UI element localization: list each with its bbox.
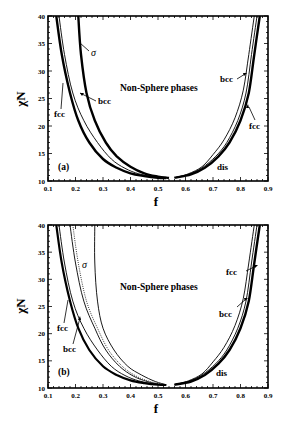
arrowhead-bcc-right-a [243,73,247,76]
y-tick-30: 30 [38,68,46,76]
y-tick-35: 35 [38,40,46,48]
x-tick-0.9: 0.9 [264,185,273,193]
y-tick-15: 15 [38,357,46,365]
x-tick-0.8: 0.8 [236,392,245,400]
x-tick-0.9: 0.9 [264,392,273,400]
y-tick-35: 35 [38,249,46,257]
y-tick-40: 40 [38,222,46,230]
y-tick-25: 25 [38,95,46,103]
arrow-fcc-left-b [64,300,68,323]
label-bcc-right-b: bcc [219,309,232,319]
x-axis-title-b: f [154,401,159,416]
y-tick-40: 40 [38,13,46,21]
y-tick-15: 15 [38,150,46,158]
x-tick-0.7: 0.7 [209,185,218,193]
x-tick-0.8: 0.8 [236,185,245,193]
label-fcc-left-a: fcc [54,109,65,119]
label-dis-a: dis [217,162,229,172]
label-fcc-left-b: fcc [57,323,68,333]
phase-boundary-curve [175,225,258,385]
curves-panel-a [56,16,259,178]
phase-boundary-curve [56,16,166,178]
arrow-fcc-left-a [61,83,63,109]
panel-b: 40 35 30 25 20 15 10 0.1 0.2 0.3 0.4 0.5… [13,222,273,417]
panel-label-b: (b) [58,367,70,378]
x-tick-labels-a: 0.1 0.2 0.3 0.4 0.5 0.6 0.7 0.8 0.9 [44,185,273,193]
region-label-a: Non-Sphere phases [120,83,198,93]
panel-a: 40 35 30 25 20 15 10 0.1 0.2 0.3 0.4 0.5… [13,13,273,210]
phase-boundary-curve [95,225,167,385]
x-tick-0.1: 0.1 [44,185,53,193]
label-fcc-right-a: fcc [249,121,260,131]
x-tick-0.5: 0.5 [154,185,163,193]
label-bcc-left-a: bcc [98,96,111,106]
label-bcc-left-b: bcc [63,344,76,354]
y-axis-title-b: χN [13,298,28,315]
phase-boundary-curve [78,16,169,178]
x-axis-title-a: f [154,194,159,209]
label-sigma-b: σ [82,259,88,270]
phase-boundary-curve [59,16,164,178]
x-tick-0.6: 0.6 [181,185,190,193]
x-tick-0.2: 0.2 [71,392,80,400]
y-tick-30: 30 [38,276,46,284]
y-tick-25: 25 [38,303,46,311]
x-tick-0.1: 0.1 [44,392,53,400]
x-tick-0.4: 0.4 [126,392,135,400]
y-tick-20: 20 [38,123,46,131]
arrow-fcc-right-a [249,107,255,120]
curves-panel-b [56,225,259,385]
y-axis-title-a: χN [13,91,28,108]
phase-boundary-curve [175,16,258,178]
phase-boundary-curve [59,225,164,385]
label-dis-b: dis [216,368,228,378]
phase-boundary-curve [175,225,260,385]
ticks-panel-b [48,225,268,388]
panel-label-a: (a) [58,162,69,173]
phase-boundary-curve [175,225,255,385]
label-bcc-right-a: bcc [220,74,233,84]
phase-diagram-figure: 40 35 30 25 20 15 10 0.1 0.2 0.3 0.4 0.5… [0,0,284,427]
plot-frame-b [48,225,268,388]
y-tick-labels-b: 40 35 30 25 20 15 10 [38,222,46,393]
region-label-b: Non-Sphere phases [120,282,198,292]
phase-boundary-curve [70,225,161,385]
x-tick-0.3: 0.3 [99,185,108,193]
phase-boundary-curve [73,225,164,385]
x-tick-0.5: 0.5 [154,392,163,400]
phase-boundary-curve [175,16,260,178]
x-tick-0.7: 0.7 [209,392,218,400]
label-sigma-a: σ [91,47,97,58]
y-tick-20: 20 [38,330,46,338]
phase-boundary-curve [175,16,255,178]
x-tick-0.2: 0.2 [71,185,80,193]
label-fcc-right-b: fcc [226,267,237,277]
phase-boundary-curve [56,225,166,385]
x-tick-0.3: 0.3 [99,392,108,400]
x-tick-0.4: 0.4 [126,185,135,193]
x-tick-labels-b: 0.1 0.2 0.3 0.4 0.5 0.6 0.7 0.8 0.9 [44,392,273,400]
y-tick-labels-a: 40 35 30 25 20 15 10 [38,13,46,186]
x-tick-0.6: 0.6 [181,392,190,400]
